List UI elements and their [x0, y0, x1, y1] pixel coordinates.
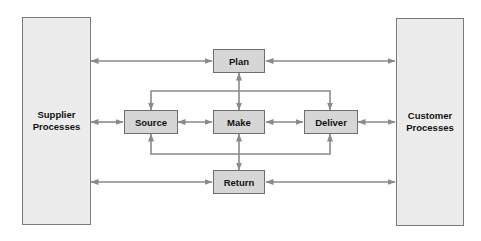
- customer-processes-box: Customer Processes: [396, 18, 464, 226]
- arrow-plan-source: [151, 91, 239, 110]
- supplier-label-line1: Supplier: [33, 109, 81, 121]
- return-label: Return: [224, 177, 255, 188]
- deliver-box: Deliver: [304, 110, 358, 134]
- arrow-return-deliver: [239, 134, 330, 154]
- make-box: Make: [213, 110, 265, 134]
- plan-label: Plan: [229, 56, 249, 67]
- supplier-processes-box: Supplier Processes: [22, 17, 91, 225]
- deliver-label: Deliver: [315, 117, 347, 128]
- arrow-return-source: [151, 134, 239, 154]
- return-box: Return: [213, 170, 265, 194]
- make-label: Make: [227, 117, 251, 128]
- arrow-plan-deliver: [239, 91, 330, 110]
- scor-diagram: Supplier Processes Customer Processes Pl…: [0, 0, 481, 241]
- plan-box: Plan: [213, 49, 265, 73]
- source-box: Source: [124, 110, 178, 134]
- supplier-label-line2: Processes: [33, 121, 81, 133]
- customer-label-line1: Customer: [406, 110, 454, 122]
- source-label: Source: [135, 117, 167, 128]
- customer-label-line2: Processes: [406, 122, 454, 134]
